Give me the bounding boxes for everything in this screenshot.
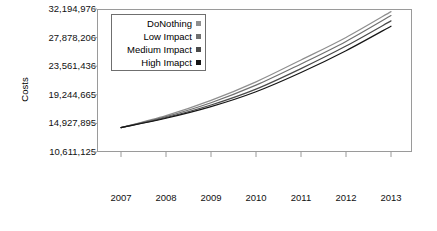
x-axis-tick-label: 2013 bbox=[371, 192, 411, 203]
x-axis-tick-label: 2009 bbox=[191, 192, 231, 203]
legend-item-donothing: DoNothing bbox=[115, 17, 201, 30]
x-axis-tick-label: 2012 bbox=[326, 192, 366, 203]
legend-label: High Imapct bbox=[141, 57, 192, 68]
legend-label: DoNothing bbox=[147, 18, 192, 29]
x-axis-tick-label: 2011 bbox=[281, 192, 321, 203]
legend-color-swatch bbox=[196, 21, 201, 26]
chart-container: Costs 10,611,12514,927,89519,244,66523,5… bbox=[0, 0, 437, 231]
legend-item-high-impact: High Imapct bbox=[115, 56, 201, 69]
x-axis-tick-label: 2008 bbox=[146, 192, 186, 203]
legend-color-swatch bbox=[196, 47, 201, 52]
x-axis-tick-label: 2010 bbox=[236, 192, 276, 203]
legend-color-swatch bbox=[196, 60, 201, 65]
x-axis-tick-label: 2007 bbox=[101, 192, 141, 203]
chart-legend: DoNothing Low Impact Medium Impact High … bbox=[111, 14, 206, 71]
legend-item-medium-impact: Medium Impact bbox=[115, 43, 201, 56]
legend-item-low-impact: Low Impact bbox=[115, 30, 201, 43]
legend-label: Low Impact bbox=[143, 31, 192, 42]
legend-label: Medium Impact bbox=[127, 44, 192, 55]
legend-color-swatch bbox=[196, 34, 201, 39]
